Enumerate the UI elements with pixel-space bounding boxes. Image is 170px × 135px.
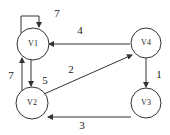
node-label-v1: V1 xyxy=(28,39,38,48)
weight-v1-v2: 5 xyxy=(42,74,48,86)
node-v4: V4 xyxy=(131,28,161,58)
edge-v2-v4 xyxy=(44,55,132,94)
node-v2: V2 xyxy=(16,87,48,119)
node-v3: V3 xyxy=(131,88,161,118)
weight-v4-v1: 4 xyxy=(77,24,83,36)
node-label-v4: V4 xyxy=(141,38,151,47)
weight-v2-v1: 7 xyxy=(8,69,14,81)
node-v1: V1 xyxy=(17,28,49,60)
node-label-v3: V3 xyxy=(141,98,151,107)
node-label-v2: V2 xyxy=(27,98,37,107)
weight-v2-v4: 2 xyxy=(68,63,74,75)
weight-v3-v2: 3 xyxy=(79,119,85,131)
weight-v4-v3: 1 xyxy=(156,68,162,80)
directed-weighted-graph: 7 4 2 5 7 1 3 V1 V2 V3 V4 xyxy=(0,0,170,135)
weight-v1-v1: 7 xyxy=(54,7,60,19)
